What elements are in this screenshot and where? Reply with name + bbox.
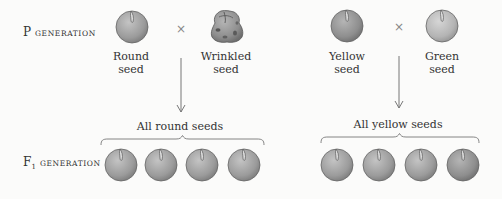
f1-yellow-seed-icon [362,148,396,182]
wrinkled-seed-icon [209,9,245,45]
cross-symbol: × [176,22,186,36]
round-seed-label: Round seed [96,50,166,76]
yellow-seed-icon [330,9,364,43]
yellow-seed-label: Yellow seed [312,50,382,76]
brace-icon [100,135,265,147]
down-arrow-icon [394,56,404,112]
brace-icon [320,133,480,145]
f1-yellow-seed-icon [446,148,480,182]
f1-round-seed-icon [144,148,178,182]
f1-yellow-seed-icon [404,148,438,182]
round-seed-icon [115,10,149,44]
wrinkled-seed-label: Wrinkled seed [191,50,261,76]
p-generation-label: P generation [23,25,96,39]
f1-round-seed-icon [104,148,138,182]
result-label-round: All round seeds [130,120,230,133]
green-seed-label: Green seed [407,50,477,76]
result-label-yellow: All yellow seeds [348,118,448,131]
down-arrow-icon [176,58,186,114]
f1-yellow-seed-icon [320,148,354,182]
cross-symbol: × [394,20,404,34]
f1-round-seed-icon [227,148,261,182]
f1-generation-label: F1 generation [23,155,101,171]
green-seed-icon [425,9,459,43]
f1-round-seed-icon [185,148,219,182]
